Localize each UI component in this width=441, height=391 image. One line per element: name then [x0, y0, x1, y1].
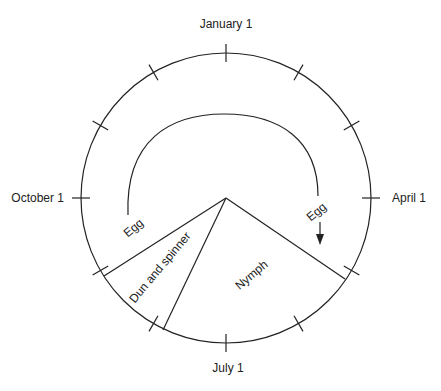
label-january: January 1 — [200, 17, 253, 31]
month-tick — [149, 316, 158, 332]
label-egg-right: Egg — [304, 200, 329, 224]
label-nymph: Nymph — [232, 257, 270, 292]
month-tick — [93, 121, 109, 130]
label-october: October 1 — [11, 191, 64, 205]
month-tick — [344, 121, 360, 130]
label-july: July 1 — [212, 361, 244, 375]
month-tick — [294, 65, 303, 81]
egg-arrow-head — [316, 234, 324, 245]
month-tick — [344, 266, 360, 275]
life-cycle-diagram: January 1 April 1 July 1 October 1 Egg E… — [0, 0, 441, 391]
month-tick — [93, 266, 109, 275]
label-april: April 1 — [392, 191, 426, 205]
label-egg-left: Egg — [121, 216, 146, 240]
month-tick — [294, 316, 303, 332]
month-tick — [149, 65, 158, 81]
